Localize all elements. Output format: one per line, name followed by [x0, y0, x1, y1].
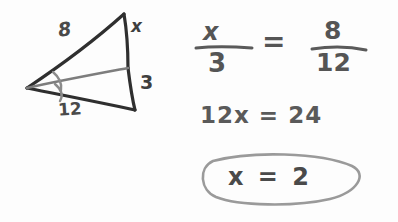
worksheet-canvas: 8 x 3 12 x 3 = 8 12 12x = 24 x = 2: [0, 0, 398, 222]
proportion-left-numerator: x: [203, 20, 218, 44]
proportion-right-numerator: 8: [324, 18, 341, 43]
figure-label-x: x: [131, 18, 142, 35]
proportion-left-denominator: 3: [208, 50, 226, 76]
figure-label-8: 8: [57, 19, 73, 40]
triangle-side-right-lower: [128, 68, 135, 110]
triangle-side-right-upper: [124, 14, 128, 68]
proportion-right-denominator: 12: [316, 50, 351, 75]
proportion-equals-sign: =: [262, 28, 285, 56]
figure-label-3: 3: [140, 73, 153, 92]
work-step-two: 12x = 24: [200, 104, 322, 127]
figure-label-12: 12: [57, 100, 82, 119]
final-answer: x = 2: [228, 165, 312, 189]
